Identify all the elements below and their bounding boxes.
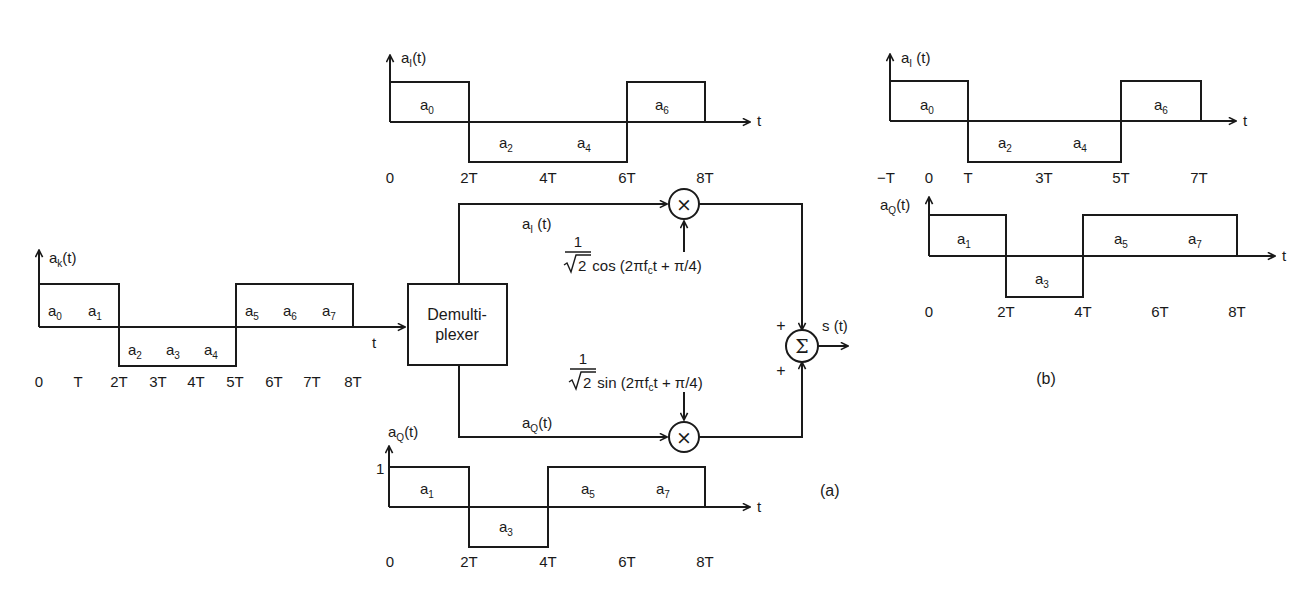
svg-text:a1: a1	[88, 302, 102, 322]
i-branch-label: aI (t)	[522, 215, 551, 235]
svg-text:a4: a4	[204, 341, 218, 361]
svg-text:1: 1	[579, 350, 587, 367]
svg-text:2sin (2πfct + π/4): 2sin (2πfct + π/4)	[583, 374, 703, 393]
svg-text:6T: 6T	[618, 169, 636, 186]
oqpsk-modulator-figure: ak(t) t a0 a1 a2 a3 a4 a5 a6 a7 0 T 2T 3…	[0, 0, 1315, 599]
figure-label-b: (b)	[1036, 370, 1056, 387]
plus-top: +	[776, 317, 785, 334]
level-one-label: 1	[376, 460, 384, 477]
svg-text:a5: a5	[245, 302, 259, 322]
right-q-waveform: aQ(t) t a1 a3 a5 a7 0 2T 4T 6T 8T	[880, 196, 1287, 320]
cos-carrier-label: 1 2cos (2πfct + π/4)	[564, 233, 702, 276]
svg-text:a4: a4	[577, 134, 591, 154]
svg-text:0: 0	[925, 169, 933, 186]
bottom-q-axis-label: aQ(t)	[388, 423, 418, 443]
demux-label-1: Demulti-	[427, 306, 487, 323]
multiply-icon: ×	[676, 193, 692, 215]
right-i-axis-label: aI (t)	[901, 49, 930, 69]
bottom-q-t-label: t	[757, 498, 762, 515]
svg-text:a7: a7	[656, 480, 670, 500]
ak-t-label: t	[372, 334, 377, 351]
svg-text:4T: 4T	[1074, 303, 1092, 320]
sin-carrier-label: 1 2sin (2πfct + π/4)	[569, 350, 703, 393]
svg-text:5T: 5T	[226, 373, 244, 390]
svg-text:8T: 8T	[696, 169, 714, 186]
ak-symbols: a0 a1 a2 a3 a4 a5 a6 a7	[48, 302, 336, 361]
svg-text:0: 0	[925, 303, 933, 320]
svg-text:1: 1	[574, 233, 582, 250]
svg-text:a3: a3	[166, 341, 180, 361]
svg-text:0: 0	[35, 373, 43, 390]
svg-text:5T: 5T	[1112, 169, 1130, 186]
right-i-t-label: t	[1243, 112, 1248, 129]
svg-text:a7: a7	[1188, 230, 1202, 250]
svg-text:3T: 3T	[149, 373, 167, 390]
right-q-axis-label: aQ(t)	[880, 196, 910, 216]
plus-bottom: +	[776, 362, 785, 379]
svg-text:−T: −T	[877, 169, 895, 186]
bottom-q-waveform: aQ(t) 1 t a1 a3 a5 a7 0 2T 4T 6T 8T	[376, 423, 762, 570]
modulator-block-diagram: Demulti- plexer aI (t) × 1 2cos (2πfct +…	[408, 189, 848, 452]
i-to-summer-line	[699, 204, 802, 330]
q-to-summer-line	[699, 362, 802, 437]
svg-text:a6: a6	[655, 96, 669, 116]
multiply-icon: ×	[676, 426, 692, 448]
ak-axis-label: ak(t)	[49, 249, 77, 269]
svg-text:a2: a2	[128, 341, 142, 361]
svg-text:8T: 8T	[1228, 303, 1246, 320]
svg-text:a5: a5	[1114, 230, 1128, 250]
svg-text:a3: a3	[1035, 270, 1049, 290]
svg-text:a0: a0	[48, 302, 62, 322]
svg-text:0: 0	[386, 553, 394, 570]
svg-text:8T: 8T	[344, 373, 362, 390]
svg-text:a4: a4	[1073, 134, 1087, 154]
svg-text:8T: 8T	[696, 553, 714, 570]
svg-text:4T: 4T	[187, 373, 205, 390]
svg-text:T: T	[963, 169, 972, 186]
svg-text:2cos (2πfct + π/4): 2cos (2πfct + π/4)	[578, 257, 702, 276]
ak-tick-labels: 0 T 2T 3T 4T 5T 6T 7T 8T	[35, 373, 362, 390]
svg-text:2T: 2T	[460, 169, 478, 186]
figure-label-a: (a)	[820, 482, 840, 499]
svg-text:a2: a2	[499, 134, 513, 154]
svg-text:2T: 2T	[460, 553, 478, 570]
q-branch-label: aQ(t)	[522, 414, 552, 434]
top-i-waveform: aI(t) t a0 a2 a4 a6 0 2T 4T 6T 8T	[386, 49, 762, 186]
svg-text:4T: 4T	[539, 169, 557, 186]
ak-pulse-train	[39, 284, 353, 366]
right-q-t-label: t	[1282, 247, 1287, 264]
svg-text:a1: a1	[957, 230, 971, 250]
svg-text:6T: 6T	[1151, 303, 1169, 320]
svg-text:a7: a7	[322, 302, 336, 322]
top-i-t-label: t	[757, 112, 762, 129]
svg-text:2T: 2T	[997, 303, 1015, 320]
right-i-waveform: aI (t) t a0 a2 a4 a6 −T 0 T 3T 5T 7T	[877, 49, 1248, 186]
svg-text:a2: a2	[998, 134, 1012, 154]
svg-text:6T: 6T	[265, 373, 283, 390]
demux-label-2: plexer	[435, 326, 479, 343]
svg-text:a3: a3	[499, 518, 513, 538]
sigma-icon: Σ	[795, 335, 808, 357]
svg-text:2T: 2T	[110, 373, 128, 390]
top-i-axis-label: aI(t)	[401, 49, 426, 69]
svg-text:3T: 3T	[1035, 169, 1053, 186]
svg-text:a6: a6	[283, 302, 297, 322]
svg-text:a5: a5	[581, 480, 595, 500]
svg-text:a0: a0	[420, 96, 434, 116]
svg-text:7T: 7T	[303, 373, 321, 390]
svg-text:a0: a0	[920, 96, 934, 116]
output-label: s (t)	[822, 317, 848, 334]
svg-text:4T: 4T	[539, 553, 557, 570]
svg-text:7T: 7T	[1190, 169, 1208, 186]
svg-text:a6: a6	[1154, 96, 1168, 116]
demultiplexer-block	[408, 284, 507, 365]
svg-text:6T: 6T	[618, 553, 636, 570]
input-waveform-ak: ak(t) t a0 a1 a2 a3 a4 a5 a6 a7 0 T 2T 3…	[35, 249, 405, 390]
svg-text:T: T	[73, 373, 82, 390]
svg-text:a1: a1	[420, 480, 434, 500]
svg-text:0: 0	[386, 169, 394, 186]
